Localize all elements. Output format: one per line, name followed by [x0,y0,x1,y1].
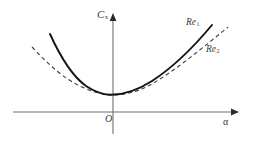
figure-container: Cx O α Re1 Re2 [0,0,253,144]
curve-label-re1: Re1 [186,18,199,28]
plot-canvas [0,0,253,144]
curve-label-re2-subscript: 2 [216,48,219,54]
y-axis-arrowhead [110,13,117,21]
curve-label-re2-text: Re [206,44,216,54]
curve-label-re2: Re2 [206,45,219,55]
curve-re2-dashed [32,27,228,95]
x-axis-label: α [223,117,228,127]
origin-label: O [105,114,112,124]
curve-label-re1-subscript: 1 [196,21,199,27]
curve-label-re1-text: Re [186,17,196,27]
y-axis-label: Cx [97,9,108,21]
x-axis-arrowhead [231,108,239,115]
y-axis-label-subscript: x [104,13,108,20]
curve-re1-solid [50,25,212,95]
